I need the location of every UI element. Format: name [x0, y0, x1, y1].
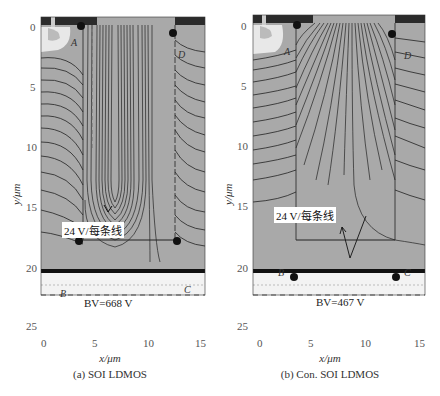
x-tick-0: 0 [257, 337, 263, 349]
caption-a: (a) SOI LDMOS [0, 368, 220, 380]
point-label-b: B [278, 267, 284, 278]
y-tick-5: 5 [241, 80, 247, 92]
contour-plot-a [0, 0, 220, 396]
x-tick-0: 0 [41, 337, 47, 349]
y-tick-15: 15 [237, 200, 248, 212]
breakdown-voltage-label: BV=668 V [84, 297, 132, 309]
y-tick-10: 10 [237, 140, 248, 152]
y-tick-20: 20 [237, 262, 248, 274]
x-tick-15: 15 [414, 337, 425, 349]
y-tick-15: 15 [26, 201, 37, 213]
point-label-b: B [60, 288, 66, 299]
y-tick-0: 0 [30, 21, 36, 33]
y-tick-5: 5 [30, 81, 36, 93]
x-tick-10: 10 [360, 337, 371, 349]
x-axis-label: x/μm [0, 352, 220, 364]
x-tick-5: 5 [308, 337, 314, 349]
x-tick-5: 5 [92, 337, 98, 349]
x-axis-label: x/μm [220, 352, 440, 364]
panel-con-soi-ldmos: 0 5 10 15 20 25 0 5 10 15 x/μm y/μm 24 V… [220, 0, 440, 396]
y-tick-20: 20 [26, 262, 37, 274]
x-tick-15: 15 [195, 337, 206, 349]
y-tick-25: 25 [26, 320, 37, 332]
panel-soi-ldmos: 0 5 10 15 20 25 0 5 10 15 x/μm y/μm 24 V… [0, 0, 220, 396]
contour-step-annotation: 24 V/每条线 [62, 222, 124, 238]
caption-b: (b) Con. SOI LDMOS [220, 368, 440, 380]
point-label-a: A [284, 46, 290, 57]
y-axis-label: y/μm [222, 184, 234, 205]
y-tick-25: 25 [237, 320, 248, 332]
contour-step-annotation: 24 V/每条线 [274, 207, 336, 223]
y-tick-10: 10 [26, 141, 37, 153]
point-label-a: A [71, 37, 77, 48]
x-tick-10: 10 [143, 337, 154, 349]
point-label-d: D [178, 49, 185, 60]
point-label-c: C [184, 284, 191, 295]
y-tick-0: 0 [241, 20, 247, 32]
y-axis-label: y/μm [10, 184, 22, 205]
breakdown-voltage-label: BV=467 V [316, 296, 364, 308]
point-label-c: C [404, 267, 411, 278]
point-label-d: D [404, 50, 411, 61]
